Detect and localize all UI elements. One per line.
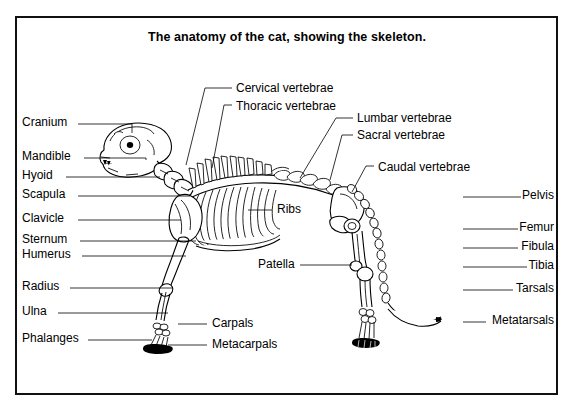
hindlimb-group: [350, 231, 380, 348]
label-fibula: Fibula: [521, 240, 554, 252]
label-tibia: Tibia: [528, 259, 554, 271]
label-mandible: Mandible: [22, 150, 71, 162]
label-pelvis: Pelvis: [522, 189, 554, 201]
leader-cervical-vertebrae: [186, 88, 232, 165]
label-scapula: Scapula: [22, 188, 65, 200]
forelimb-group: [143, 237, 189, 354]
label-humerus: Humerus: [22, 248, 71, 260]
leader-sacral-vertebrae: [330, 135, 353, 180]
label-carpals: Carpals: [212, 317, 253, 329]
label-ribs: Ribs: [277, 203, 301, 215]
label-ulna: Ulna: [22, 305, 47, 317]
label-lumbar-vertebrae: Lumbar vertebrae: [357, 112, 452, 124]
label-femur: Femur: [519, 221, 554, 233]
label-clavicle: Clavicle: [22, 212, 64, 224]
cervical-vertebrae-group: [154, 163, 193, 196]
label-hyoid: Hyoid: [22, 169, 53, 181]
label-phalanges: Phalanges: [22, 332, 79, 344]
label-caudal-vertebrae: Caudal vertebrae: [378, 161, 470, 173]
anatomy-figure: The anatomy of the cat, showing the skel…: [0, 0, 574, 412]
label-cervical-vertebrae: Cervical vertebrae: [236, 82, 333, 94]
label-cranium: Cranium: [22, 116, 67, 128]
label-metatarsals: Metatarsals: [492, 314, 554, 326]
label-sternum: Sternum: [22, 233, 67, 245]
label-metacarpals: Metacarpals: [212, 338, 277, 350]
label-patella: Patella: [258, 258, 295, 270]
label-thoracic-vertebrae: Thoracic vertebrae: [236, 100, 336, 112]
label-sacral-vertebrae: Sacral vertebrae: [357, 129, 445, 141]
label-radius: Radius: [22, 280, 59, 292]
leader-lumbar-vertebrae: [300, 118, 353, 178]
label-tarsals: Tarsals: [516, 282, 554, 294]
